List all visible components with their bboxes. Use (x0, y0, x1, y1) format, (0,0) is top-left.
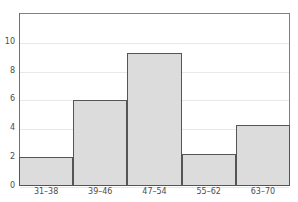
x-tick-label: 55–62 (182, 188, 236, 196)
x-tick-label: 39–46 (73, 188, 127, 196)
y-tick-label: 10 (5, 38, 15, 46)
y-tick-label: 2 (10, 153, 15, 161)
y-tick-label: 6 (10, 95, 15, 103)
y-axis-tick-labels: 0 2 4 6 8 10 (0, 13, 15, 186)
y-tick-label: 0 (10, 182, 15, 190)
y-tick-label: 4 (10, 124, 15, 132)
histogram-bar (236, 125, 290, 186)
y-tick-label: 8 (10, 67, 15, 75)
histogram-bar (127, 53, 181, 186)
x-tick-label: 31–38 (19, 188, 73, 196)
x-tick-label: 47–54 (127, 188, 181, 196)
histogram-bar (73, 100, 127, 187)
histogram-chart: 0 2 4 6 8 10 31–3839–4647–5455–6263–70 (0, 0, 298, 202)
histogram-bar (182, 154, 236, 186)
bars-layer (19, 13, 290, 186)
histogram-bar (19, 157, 73, 186)
x-tick-label: 63–70 (236, 188, 290, 196)
